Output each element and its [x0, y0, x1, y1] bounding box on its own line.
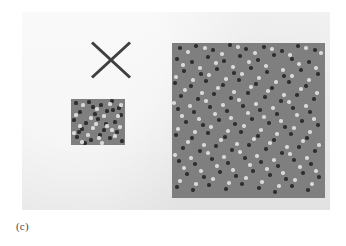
texture-dot [216, 86, 219, 89]
texture-dot [313, 48, 316, 51]
texture-dot [290, 57, 293, 60]
texture-dot [89, 138, 92, 141]
texture-dot [295, 93, 298, 96]
texture-dot [307, 60, 310, 63]
texture-dot [201, 123, 204, 126]
texture-dot [279, 99, 282, 102]
texture-dot [87, 100, 90, 103]
texture-dot [182, 69, 185, 72]
texture-dot [83, 141, 86, 144]
texture-dot [295, 113, 298, 116]
figure-caption: (c) [16, 220, 29, 232]
texture-dot [175, 185, 178, 188]
texture-dot [232, 71, 235, 74]
texture-dot [102, 114, 105, 117]
texture-dot [280, 151, 283, 154]
texture-dot [249, 85, 252, 88]
texture-dot [191, 188, 194, 191]
texture-dot [239, 130, 242, 133]
texture-dot [283, 125, 286, 128]
texture-dot [316, 72, 319, 75]
texture-dot [221, 83, 224, 86]
texture-dot [223, 135, 226, 138]
texture-dot [258, 108, 261, 111]
texture-dot [285, 145, 288, 148]
texture-dot [225, 109, 228, 112]
texture-dot [184, 120, 187, 123]
texture-dot [257, 76, 260, 79]
texture-dot [72, 118, 75, 121]
texture-dot [93, 112, 96, 115]
texture-dot [232, 90, 235, 93]
texture-dot [178, 179, 181, 182]
texture-dot [91, 105, 94, 108]
texture-dot [172, 101, 175, 104]
texture-dot [259, 160, 262, 163]
texture-dot [105, 124, 108, 127]
texture-dot [102, 128, 105, 131]
texture-dot [236, 45, 239, 48]
texture-dot [304, 104, 307, 107]
texture-dot [206, 131, 209, 134]
texture-dot [277, 184, 280, 187]
texture-dot [254, 82, 257, 85]
texture-dot [105, 109, 108, 112]
texture-dot [206, 55, 209, 58]
texture-dot [224, 77, 227, 80]
texture-dot [244, 47, 247, 50]
texture-dot [264, 147, 267, 150]
texture-dot [180, 114, 183, 117]
texture-dot [215, 67, 218, 70]
texture-dot [111, 108, 114, 111]
texture-dot [263, 95, 266, 98]
texture-dot [193, 162, 196, 165]
texture-dot [308, 110, 311, 113]
texture-dot [226, 129, 229, 132]
texture-dot [199, 72, 202, 75]
texture-dot [301, 139, 304, 142]
texture-dot [84, 121, 87, 124]
texture-dot [262, 115, 265, 118]
texture-dot [282, 93, 285, 96]
texture-dot [182, 166, 185, 169]
texture-dot [287, 100, 290, 103]
texture-dot [305, 156, 308, 159]
texture-dot [188, 104, 191, 107]
texture-dot [191, 78, 194, 81]
texture-dot [304, 84, 307, 87]
texture-dot [183, 88, 186, 91]
texture-dot [220, 52, 223, 55]
texture-dot [310, 182, 313, 185]
texture-dot [77, 130, 80, 133]
texture-dot [185, 172, 188, 175]
texture-dot [240, 182, 243, 185]
texture-dot [241, 104, 244, 107]
texture-dot [307, 78, 310, 81]
texture-dot [211, 177, 214, 180]
texture-dot [181, 146, 184, 149]
texture-dot [226, 161, 229, 164]
texture-dot [272, 53, 275, 56]
texture-dot [192, 110, 195, 113]
texture-dot [281, 171, 284, 174]
texture-dot [243, 156, 246, 159]
texture-dot [80, 127, 83, 130]
texture-dot [233, 122, 236, 125]
texture-dot [222, 155, 225, 158]
texture-dot [288, 53, 291, 56]
texture-dot [229, 96, 232, 99]
stimulus-panel [22, 12, 330, 210]
texture-dot [175, 57, 178, 60]
texture-dot [301, 171, 304, 174]
texture-dot [86, 133, 89, 136]
texture-dot [282, 74, 285, 77]
texture-dot [292, 158, 295, 161]
texture-dot [262, 45, 265, 48]
texture-dot [312, 117, 315, 120]
texture-dot [264, 64, 267, 67]
texture-dot [222, 59, 225, 62]
texture-dot [272, 138, 275, 141]
texture-dot [203, 46, 206, 49]
texture-dot [300, 119, 303, 122]
texture-dot [100, 141, 103, 144]
